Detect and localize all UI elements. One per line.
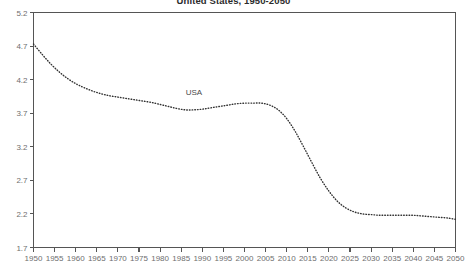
- x-tick-label: 2025: [341, 254, 359, 261]
- x-axis-ticks: 1950195519601965197019751980198519901995…: [25, 248, 465, 261]
- x-tick-label: 2030: [362, 254, 380, 261]
- x-tick-label: 1965: [88, 254, 106, 261]
- y-axis-ticks: 1.72.22.73.23.74.24.75.2: [16, 9, 33, 253]
- x-tick-label: 1950: [25, 254, 43, 261]
- y-tick-label: 3.2: [16, 143, 28, 152]
- x-tick-label: 2015: [299, 254, 317, 261]
- x-tick-label: 1990: [193, 254, 211, 261]
- data-series-layer: [34, 44, 456, 219]
- x-tick-label: 1960: [67, 254, 85, 261]
- y-tick-label: 4.7: [16, 42, 28, 51]
- x-tick-label: 1975: [130, 254, 148, 261]
- y-tick-label: 3.7: [16, 109, 28, 118]
- y-tick-label: 2.2: [16, 210, 28, 219]
- x-tick-label: 1955: [46, 254, 64, 261]
- x-tick-label: 2020: [320, 254, 338, 261]
- x-tick-label: 1995: [215, 254, 233, 261]
- x-tick-label: 2010: [278, 254, 296, 261]
- x-tick-label: 1985: [172, 254, 190, 261]
- y-tick-label: 5.2: [16, 9, 28, 18]
- y-tick-label: 2.7: [16, 176, 28, 185]
- x-tick-label: 2045: [426, 254, 444, 261]
- annotation-layer: USA: [186, 88, 203, 97]
- x-tick-label: 2005: [257, 254, 275, 261]
- x-tick-label: 2035: [383, 254, 401, 261]
- y-tick-label: 4.2: [16, 76, 28, 85]
- x-tick-label: 1980: [151, 254, 169, 261]
- x-tick-label: 2040: [404, 254, 422, 261]
- series-annotation-label: USA: [186, 88, 203, 97]
- x-tick-label: 1970: [109, 254, 127, 261]
- y-tick-label: 1.7: [16, 244, 28, 253]
- x-tick-label: 2000: [236, 254, 254, 261]
- chart-plot-area: 1.72.22.73.23.74.24.75.2 195019551960196…: [0, 0, 467, 261]
- data-series-line: [34, 44, 456, 219]
- x-tick-label: 2050: [447, 254, 465, 261]
- chart-container: United States, 1950-2050 1.72.22.73.23.7…: [0, 0, 467, 261]
- axis-frame: [34, 13, 456, 248]
